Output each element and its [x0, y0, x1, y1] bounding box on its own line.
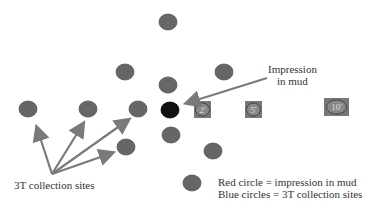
impression-label-line2: in mud	[268, 75, 317, 87]
svg-text:10': 10'	[331, 102, 342, 112]
site-circle	[117, 139, 135, 155]
legend-line-sites: Blue circles = 3T collection sites	[218, 188, 362, 200]
site-circle	[159, 77, 177, 93]
site-arrows	[37, 120, 128, 174]
site-circle	[159, 14, 177, 30]
site-circle	[162, 127, 180, 143]
site-circle	[204, 143, 222, 159]
site-circle	[129, 101, 147, 117]
site-circle	[79, 101, 97, 117]
diagram-canvas: 2' 5' 10' Impression in mud 3T collectio…	[0, 0, 373, 210]
impression-circle	[161, 102, 179, 118]
arrow-icon	[37, 128, 52, 174]
impression-label-line1: Impression	[268, 63, 317, 75]
impression-label: Impression in mud	[268, 63, 317, 87]
legend-line-impression: Red circle = impression in mud	[218, 176, 362, 188]
collection-sites-label: 3T collection sites	[14, 179, 94, 191]
distance-markers: 2' 5' 10'	[194, 98, 349, 118]
legend-circle	[183, 175, 201, 191]
svg-text:2': 2'	[199, 105, 206, 115]
arrow-icon	[52, 153, 112, 174]
impression-arrow-icon	[187, 78, 267, 103]
legend: Red circle = impression in mud Blue circ…	[218, 176, 362, 200]
site-circle	[215, 64, 233, 80]
site-circle	[116, 64, 134, 80]
site-circle	[19, 101, 37, 117]
arrow-icon	[52, 124, 83, 174]
svg-text:5': 5'	[250, 105, 257, 115]
